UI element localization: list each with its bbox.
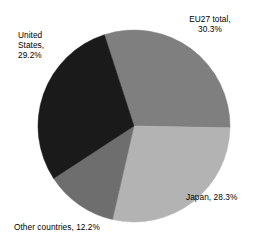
slice-label-other-countries: Other countries, 12.2% (14, 222, 132, 232)
slice-label-united-states: United States, 29.2% (18, 30, 72, 61)
pie-chart: EU27 total, 30.3% United States, 29.2% J… (0, 0, 265, 246)
slice-label-japan: Japan, 28.3% (186, 192, 262, 202)
slice-label-eu27: EU27 total, 30.3% (168, 14, 252, 34)
